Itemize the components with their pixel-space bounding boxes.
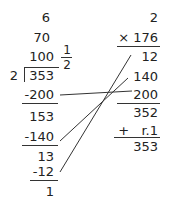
quotient-70: 70 bbox=[20, 31, 50, 45]
mult-rule-1 bbox=[117, 46, 160, 47]
step-rule-3 bbox=[30, 180, 58, 181]
mult-rule-2 bbox=[117, 103, 160, 104]
step-rule-1 bbox=[22, 103, 58, 104]
step-153: 153 bbox=[16, 110, 54, 124]
mult-sum: 352 bbox=[120, 106, 158, 120]
mult-top: 2 bbox=[120, 11, 158, 25]
mult-rule-3 bbox=[114, 137, 160, 138]
mult-result: 353 bbox=[120, 140, 158, 154]
step-rule-2 bbox=[22, 145, 58, 146]
quotient-100: 100 bbox=[20, 50, 54, 64]
mult-multiplier: × 176 bbox=[110, 31, 158, 45]
fraction-numerator: 1 bbox=[62, 44, 72, 56]
step-13: 13 bbox=[16, 150, 54, 164]
dividend: 353 bbox=[20, 69, 54, 83]
partial-200: 200 bbox=[120, 88, 158, 102]
partial-12: 12 bbox=[120, 50, 158, 64]
quotient-6: 6 bbox=[20, 11, 50, 25]
mult-remainder-add: + r.1 bbox=[112, 124, 158, 138]
partial-140: 140 bbox=[120, 70, 158, 84]
divisor: 2 bbox=[6, 69, 18, 83]
step-minus-12: -12 bbox=[16, 165, 54, 179]
step-minus-200: -200 bbox=[16, 88, 54, 102]
fraction-denominator: 2 bbox=[62, 59, 72, 71]
step-minus-140: -140 bbox=[16, 130, 54, 144]
step-remainder-1: 1 bbox=[16, 185, 54, 199]
